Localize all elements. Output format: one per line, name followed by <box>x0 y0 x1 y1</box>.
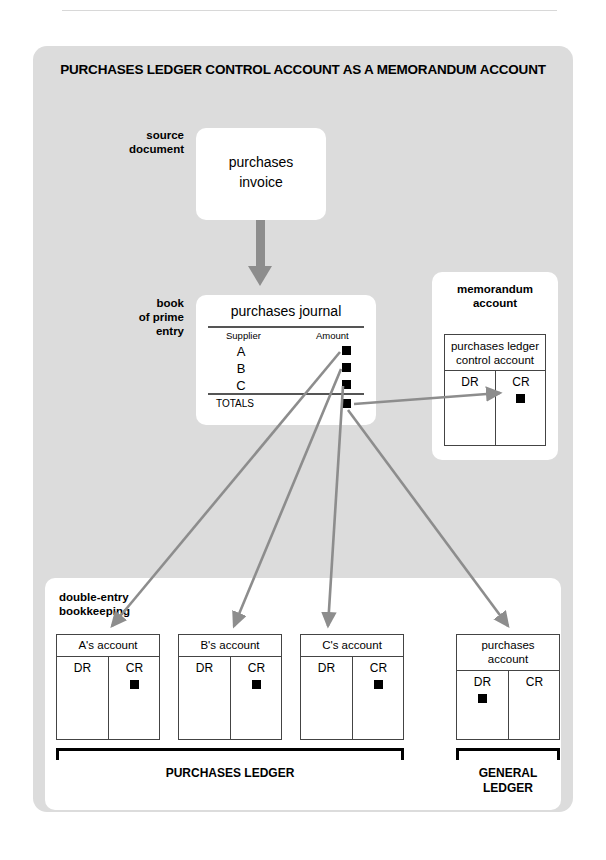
journal-amount-marker-a <box>342 346 351 355</box>
account-box-purchases: purchases account DR CR <box>456 634 560 740</box>
journal-rule-top <box>208 326 364 328</box>
label-memorandum-line2: account <box>473 297 517 309</box>
account-b-dr-label: DR <box>179 661 230 675</box>
control-account-name-line1: purchases ledger <box>451 340 539 352</box>
label-memorandum-account: memorandum account <box>432 282 558 310</box>
account-a-dr-label: DR <box>57 661 108 675</box>
account-c-cr-marker <box>374 680 383 689</box>
flow-arrow-invoice-to-journal-stem <box>256 220 265 270</box>
control-account-dr-label: DR <box>445 375 495 389</box>
account-c-cr-label: CR <box>353 661 404 675</box>
purchases-invoice-box: purchases invoice <box>196 128 326 220</box>
account-purchases-dr-label: DR <box>457 675 508 689</box>
purchases-invoice-text: purchases invoice <box>196 152 326 192</box>
account-box-a: A's account DR CR <box>56 634 160 740</box>
bracket-purchases-ledger <box>56 748 404 760</box>
control-account-name-line2: control account <box>456 354 534 366</box>
account-purchases-dr-marker <box>478 694 487 703</box>
journal-totals-marker <box>342 399 351 408</box>
account-b-cr-marker <box>252 680 261 689</box>
journal-rule-bottom <box>208 393 364 395</box>
account-a-name: A's account <box>57 635 159 657</box>
journal-row-supplier-b: B <box>226 361 256 376</box>
account-purchases-cr-label: CR <box>509 675 560 689</box>
label-memorandum-line1: memorandum <box>457 283 533 295</box>
label-source-document-line1: source <box>146 129 184 141</box>
purchases-ledger-control-account-table: purchases ledger control account DR CR <box>444 334 546 446</box>
journal-totals-label: TOTALS <box>216 398 254 409</box>
label-book-of-prime-entry: book of prime entry <box>100 296 184 338</box>
journal-column-amount: Amount <box>316 330 349 341</box>
control-account-name: purchases ledger control account <box>445 335 545 371</box>
account-box-c: C's account DR CR <box>300 634 404 740</box>
bracket-label-general-line2: LEDGER <box>483 781 533 795</box>
label-double-entry-bookkeeping: double-entry bookkeeping <box>59 590 130 618</box>
label-prime-entry-line3: entry <box>156 325 184 337</box>
purchases-journal-box: purchases journal Supplier Amount A B C … <box>196 295 376 425</box>
bracket-label-purchases-ledger: PURCHASES LEDGER <box>56 766 404 781</box>
journal-row-supplier-a: A <box>226 344 256 359</box>
journal-column-supplier: Supplier <box>226 330 261 341</box>
account-a-cr-marker <box>130 680 139 689</box>
account-b-name: B's account <box>179 635 281 657</box>
purchases-invoice-line1: purchases <box>229 154 294 170</box>
label-prime-entry-line2: of prime <box>139 311 184 323</box>
label-prime-entry-line1: book <box>157 297 184 309</box>
bracket-general-ledger <box>456 748 560 760</box>
control-account-cr-label: CR <box>496 375 546 389</box>
flow-arrow-invoice-to-journal-head <box>248 266 272 286</box>
journal-amount-marker-b <box>342 363 351 372</box>
account-box-b: B's account DR CR <box>178 634 282 740</box>
page-header-rule <box>62 10 557 11</box>
account-a-cr-label: CR <box>109 661 160 675</box>
account-b-cr-label: CR <box>231 661 282 675</box>
purchases-journal-title: purchases journal <box>196 303 376 319</box>
label-source-document-line2: document <box>129 143 184 155</box>
account-purchases-name: purchases account <box>457 635 559 671</box>
journal-row-supplier-c: C <box>226 378 256 393</box>
bracket-label-general-line1: GENERAL <box>479 766 538 780</box>
purchases-invoice-line2: invoice <box>239 174 283 190</box>
diagram-page: PURCHASES LEDGER CONTROL ACCOUNT AS A ME… <box>0 0 606 860</box>
journal-amount-marker-c <box>342 380 351 389</box>
label-double-entry-line2: bookkeeping <box>59 605 130 617</box>
bracket-label-general-ledger: GENERAL LEDGER <box>456 766 560 796</box>
label-double-entry-line1: double-entry <box>59 591 129 603</box>
account-c-dr-label: DR <box>301 661 352 675</box>
account-purchases-name-line1: purchases <box>481 639 534 651</box>
account-c-name: C's account <box>301 635 403 657</box>
label-source-document: source document <box>100 128 184 156</box>
control-account-cr-marker <box>516 394 525 403</box>
account-purchases-name-line2: account <box>488 653 528 665</box>
page-title: PURCHASES LEDGER CONTROL ACCOUNT AS A ME… <box>33 62 573 77</box>
